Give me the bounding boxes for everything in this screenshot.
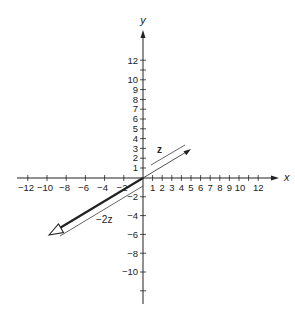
x-tick-label: −8 (59, 182, 70, 193)
y-tick-label: −10 (122, 266, 138, 277)
x-tick-label: −12 (18, 182, 34, 193)
vector-neg2z-label: −2z (96, 214, 112, 225)
x-tick-label: 9 (227, 182, 232, 193)
x-axis-label: x (283, 171, 290, 183)
y-axis-label: y (139, 14, 147, 26)
y-tick-labels: 12 10 9 8 7 6 5 4 3 2 1 −2 −4 −6 −8 −10 (122, 55, 138, 278)
y-tick-label: −6 (127, 229, 138, 240)
x-tick-label: 6 (198, 182, 203, 193)
x-tick-label: −6 (78, 182, 89, 193)
y-tick-label: 12 (127, 55, 138, 66)
y-tick-label: −4 (127, 210, 138, 221)
x-tick-label: 1 (150, 182, 155, 193)
x-tick-label: 8 (217, 182, 222, 193)
x-tick-label: −10 (37, 182, 53, 193)
x-tick-label: 3 (169, 182, 174, 193)
x-tick-label: 10 (235, 182, 246, 193)
vector-z-label: z (157, 144, 162, 155)
vector-z-arrowhead-icon (184, 149, 192, 155)
x-axis-arrow-icon (271, 176, 279, 181)
y-axis-arrow-icon (141, 30, 146, 38)
x-tick-label: 2 (160, 182, 165, 193)
y-tick-label: 1 (133, 162, 138, 173)
x-tick-label: 4 (179, 182, 184, 193)
x-tick-label: 7 (208, 182, 213, 193)
y-tick-label: −8 (127, 248, 138, 259)
vector-z (143, 145, 191, 178)
vector-diagram: −12 −10 −8 −6 −4 −2 1 2 3 4 5 6 7 8 9 10… (0, 0, 295, 318)
x-tick-label: 12 (253, 182, 264, 193)
vector-neg2z-open-arrowhead-icon (49, 224, 64, 235)
x-tick-label: 5 (188, 182, 193, 193)
x-tick-label: −4 (97, 182, 108, 193)
x-axis (17, 176, 279, 181)
y-axis (141, 30, 146, 304)
